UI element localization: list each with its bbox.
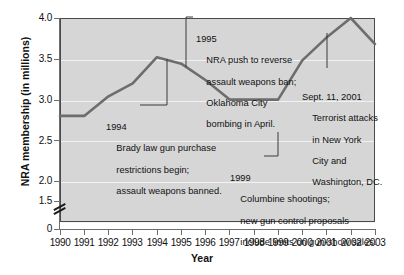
annotation-line: Oklahoma City <box>206 98 267 108</box>
y-axis-break-icon <box>53 201 67 217</box>
y-axis-tick <box>54 140 59 141</box>
annotation-line: include limits on gun-show sales. <box>240 237 376 247</box>
y-axis-title: NRA membership (in millions) <box>20 24 31 200</box>
annotation-1999: 1999 Columbine shootings; new gun contro… <box>230 152 376 258</box>
annotation-line: assault weapons ban; <box>206 77 296 87</box>
x-axis-tick <box>108 230 109 235</box>
annotation-line: Columbine shootings; <box>240 194 329 204</box>
y-tick-label: 0 <box>8 224 52 234</box>
y-axis-tick <box>54 181 59 182</box>
x-axis-tick <box>84 230 85 235</box>
annotation-line: bombing in April. <box>206 119 275 129</box>
annotation-year: 1995 <box>196 34 296 45</box>
annotation-line: restrictions begin; <box>116 165 189 175</box>
x-axis-tick <box>60 230 61 235</box>
annotation-line: in New York <box>312 135 361 145</box>
x-axis-tick <box>205 230 206 235</box>
x-axis-tick <box>157 230 158 235</box>
annotation-line: assault weapons banned. <box>116 186 221 196</box>
y-axis-tick <box>54 18 59 19</box>
annotation-line: Terrorist attacks <box>312 113 378 123</box>
annotation-line: Brady law gun purchase <box>116 143 216 153</box>
y-axis-tick <box>54 59 59 60</box>
chart-container: 4.0 3.5 3.0 2.5 2.0 1.5 0 NRA membership… <box>0 0 404 275</box>
annotation-line: NRA push to reverse <box>206 55 292 65</box>
y-tick-label: 4.0 <box>8 13 52 23</box>
annotation-year: Sept. 11, 2001 <box>302 92 382 103</box>
y-axis-line <box>59 18 60 230</box>
annotation-line: new gun control proposals <box>240 216 349 226</box>
annotation-year: 1999 <box>230 173 376 184</box>
x-axis-tick <box>181 230 182 235</box>
annotation-1995: 1995 NRA push to reverse assault weapons… <box>196 13 296 140</box>
y-axis-tick <box>54 100 59 101</box>
x-axis-tick <box>132 230 133 235</box>
